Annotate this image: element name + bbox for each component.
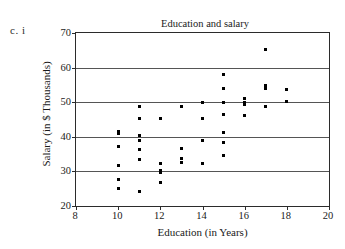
data-point bbox=[222, 154, 225, 157]
y-tick-label: 60 bbox=[45, 61, 71, 72]
x-tick-label: 18 bbox=[273, 210, 299, 221]
y-tick-mark bbox=[72, 102, 76, 103]
data-point bbox=[138, 139, 141, 142]
data-point bbox=[117, 132, 120, 135]
y-tick-label: 20 bbox=[45, 200, 71, 211]
x-tick-label: 10 bbox=[104, 210, 130, 221]
gridline bbox=[76, 171, 329, 172]
x-tick-label: 8 bbox=[62, 210, 88, 221]
data-point bbox=[138, 158, 141, 161]
data-point bbox=[138, 190, 141, 193]
data-point bbox=[222, 73, 225, 76]
gridline bbox=[76, 137, 329, 138]
x-tick-mark bbox=[329, 206, 330, 210]
data-point bbox=[264, 105, 267, 108]
x-tick-mark bbox=[160, 206, 161, 210]
data-point bbox=[138, 117, 141, 120]
y-tick-label: 70 bbox=[45, 27, 71, 38]
data-point bbox=[201, 139, 204, 142]
y-tick-mark bbox=[72, 68, 76, 69]
x-tick-mark bbox=[203, 206, 204, 210]
data-point bbox=[201, 101, 204, 104]
data-point bbox=[222, 101, 225, 104]
data-point bbox=[243, 114, 246, 117]
y-tick-label: 30 bbox=[45, 165, 71, 176]
data-point bbox=[159, 171, 162, 174]
y-tick-mark bbox=[72, 137, 76, 138]
data-point bbox=[159, 162, 162, 165]
y-tick-mark bbox=[72, 171, 76, 172]
data-point bbox=[222, 113, 225, 116]
data-point bbox=[138, 148, 141, 151]
data-point bbox=[117, 178, 120, 181]
problem-label: c. i bbox=[10, 24, 25, 36]
data-point bbox=[285, 100, 288, 103]
data-point bbox=[222, 87, 225, 90]
data-point bbox=[201, 162, 204, 165]
scatter-plot-figure: c. i Education and salary Salary (in $ T… bbox=[0, 0, 345, 249]
x-tick-mark bbox=[287, 206, 288, 210]
data-point bbox=[243, 97, 246, 100]
data-point bbox=[222, 141, 225, 144]
x-axis-tick-labels: 8101214161820 bbox=[75, 210, 330, 224]
plot-area bbox=[75, 32, 330, 207]
y-tick-label: 40 bbox=[45, 130, 71, 141]
x-tick-label: 12 bbox=[146, 210, 172, 221]
data-point bbox=[117, 145, 120, 148]
y-tick-label: 50 bbox=[45, 96, 71, 107]
data-point bbox=[138, 105, 141, 108]
x-tick-mark bbox=[76, 206, 77, 210]
x-tick-label: 16 bbox=[231, 210, 257, 221]
data-point bbox=[243, 103, 246, 106]
x-tick-mark bbox=[245, 206, 246, 210]
x-tick-mark bbox=[118, 206, 119, 210]
data-point bbox=[117, 187, 120, 190]
y-tick-mark bbox=[72, 33, 76, 34]
data-point bbox=[180, 105, 183, 108]
data-point bbox=[264, 48, 267, 51]
data-point bbox=[264, 87, 267, 90]
data-point bbox=[138, 134, 141, 137]
data-point bbox=[222, 131, 225, 134]
data-point bbox=[285, 88, 288, 91]
y-axis-tick-labels: 203040506070 bbox=[45, 32, 71, 207]
x-tick-label: 20 bbox=[315, 210, 341, 221]
data-point bbox=[117, 164, 120, 167]
x-tick-label: 14 bbox=[189, 210, 215, 221]
data-point bbox=[201, 117, 204, 120]
gridline bbox=[76, 68, 329, 69]
chart-title: Education and salary bbox=[80, 18, 330, 29]
x-axis-label: Education (in Years) bbox=[75, 226, 330, 238]
data-point bbox=[180, 147, 183, 150]
data-point bbox=[180, 161, 183, 164]
data-point bbox=[159, 117, 162, 120]
data-point bbox=[159, 181, 162, 184]
